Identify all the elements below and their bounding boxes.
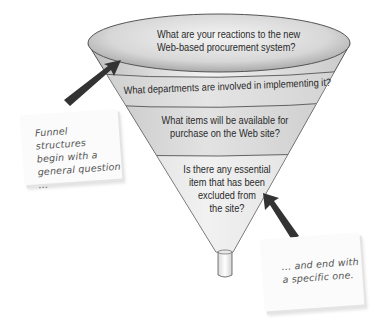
level-4-question: Is there any essential item that has bee… bbox=[179, 163, 276, 215]
level-1-line-2: Web-based procurement system? bbox=[157, 41, 289, 54]
note-right: ... and end with a specific one. bbox=[260, 233, 365, 312]
level-3-line-1: What items will be available for bbox=[159, 114, 291, 127]
level-3-line-2: purchase on the Web site? bbox=[159, 127, 291, 140]
funnel-spout bbox=[218, 252, 232, 277]
level-4-line-1: Is there any essential bbox=[179, 163, 276, 176]
level-4-line-4: the site? bbox=[179, 202, 276, 215]
note-left: Funnel structures begin with a general q… bbox=[20, 109, 123, 186]
level-3-question: What items will be available for purchas… bbox=[159, 114, 291, 140]
level-4-line-2: item that has been bbox=[179, 176, 276, 189]
level-1-line-1: What are your reactions to the new bbox=[157, 28, 289, 41]
funnel-diagram: What are your reactions to the new Web-b… bbox=[0, 0, 383, 335]
level-4-line-3: excluded from bbox=[179, 189, 276, 202]
level-1-question: What are your reactions to the new Web-b… bbox=[157, 28, 289, 54]
